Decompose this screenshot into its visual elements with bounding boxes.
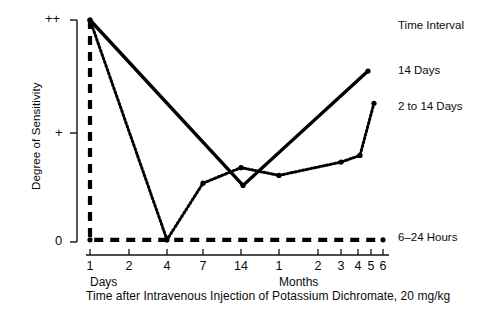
axes-lines	[70, 20, 389, 255]
x-tick-label-3: 7	[200, 259, 207, 273]
series-1-point-7	[371, 101, 376, 106]
figure-sensitivity-chart: Degree of Sensitivity ++ + 0 Time Interv…	[0, 0, 491, 309]
x-tick-label-1: 2	[126, 259, 133, 273]
series-2-point-1	[87, 237, 92, 242]
x-unit-label-months: Months	[279, 275, 318, 289]
series-line-0	[90, 20, 368, 185]
series-0-point-1	[240, 183, 245, 188]
x-unit-label-days: Days	[90, 275, 117, 289]
x-tick-label-6: 2	[315, 259, 322, 273]
series-2-point-2	[380, 237, 385, 242]
series-1-point-6	[357, 153, 362, 158]
series-line-2	[90, 20, 383, 240]
x-tick-label-5: 1	[276, 259, 283, 273]
x-tick-label-4: 14	[234, 259, 248, 273]
x-tick-labels: 124714123456DaysMonths	[87, 259, 387, 289]
series-line-1	[90, 20, 374, 240]
x-tick-label-10: 6	[380, 259, 387, 273]
series-1-point-3	[238, 165, 243, 170]
series-1-point-5	[338, 159, 343, 164]
x-tick-label-7: 3	[338, 259, 345, 273]
x-tick-label-2: 4	[164, 259, 171, 273]
data-series-group	[87, 17, 385, 242]
series-0-point-2	[365, 68, 370, 73]
x-tick-label-0: 1	[87, 259, 94, 273]
series-1-point-4	[276, 173, 281, 178]
x-tick-label-9: 5	[368, 259, 375, 273]
x-tick-label-8: 4	[355, 259, 362, 273]
plot-area: 124714123456DaysMonths	[0, 0, 491, 309]
series-1-point-2	[200, 181, 205, 186]
